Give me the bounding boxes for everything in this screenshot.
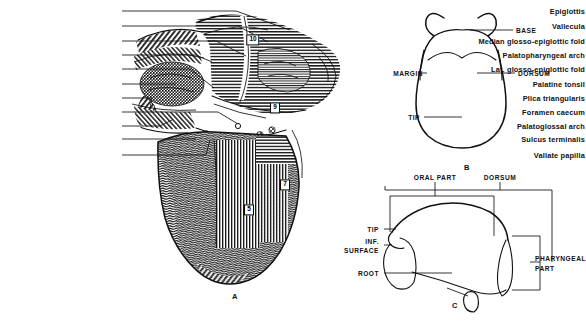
label-tip-b: TIP (400, 114, 420, 121)
label-base: BASE (516, 27, 536, 34)
figure-c-caption: C (452, 301, 458, 310)
label-palatopharyngeal-arch: Palatopharyngeal arch (463, 51, 585, 60)
tongue-body (150, 126, 310, 290)
label-epiglottis: Epiglottis (463, 7, 585, 16)
label-palatoglossal-arch: Palatoglossal arch (463, 122, 585, 131)
label-vallate-papilla: Vallate papilla (463, 151, 585, 160)
label-dorsum-c: DORSUM (484, 174, 516, 181)
label-root: ROOT (349, 270, 379, 277)
label-median-glosso-epiglottic-fold: Median glosso-epiglottic fold (463, 37, 585, 46)
palatine-tonsil-region (128, 20, 220, 146)
label-pharyngeal: PHARYNGEAL (535, 255, 586, 262)
label-tip-c: TIP (359, 226, 379, 233)
label-sulcus-terminalis: Sulcus terminalis (463, 135, 585, 144)
callout-5: 5 (244, 204, 254, 215)
label-surface: SURFACE (339, 247, 379, 254)
label-palatine-tonsil: Palatine tonsil (463, 80, 585, 89)
label-inf: INF. (339, 238, 379, 245)
label-part: PART (535, 265, 554, 272)
figure-c-illustration (384, 182, 552, 312)
callout-10: 10 (246, 34, 259, 45)
label-foramen-caecum: Foramen caecum (463, 108, 585, 117)
callout-7: 7 (280, 179, 290, 190)
figure-b-caption: B (464, 163, 470, 172)
figure-a-caption: A (232, 292, 238, 301)
label-dorsum-b: DORSUM (518, 70, 550, 77)
label-plica-triangularis: Plica triangularis (463, 94, 585, 103)
label-margin: MARGIN (387, 70, 423, 77)
label-oral-part: ORAL PART (414, 174, 456, 181)
callout-9: 9 (270, 102, 280, 113)
